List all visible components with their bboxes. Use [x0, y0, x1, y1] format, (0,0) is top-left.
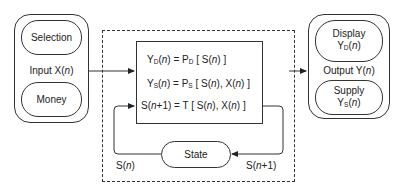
- equation-display: YD(n) = PD [ S(n) ]: [147, 54, 226, 68]
- output-supply-node: Supply YS(n): [315, 80, 383, 115]
- input-money-label: Money: [36, 94, 66, 106]
- equation-state-transition: S(n+1) = T [ S(n), X(n) ]: [141, 100, 246, 112]
- output-display-node: Display YD(n): [315, 20, 383, 62]
- output-supply-symbol: YS(n): [337, 97, 360, 111]
- input-money-node: Money: [21, 82, 82, 117]
- output-supply-label: Supply: [334, 85, 365, 97]
- output-display-label: Display: [333, 28, 366, 40]
- input-selection-label: Selection: [31, 32, 72, 44]
- state-label: State: [184, 149, 207, 161]
- state-node: State: [161, 141, 231, 168]
- feedback-label-current-state: S(n): [116, 160, 135, 172]
- output-label: Output Y(n): [308, 65, 390, 77]
- input-label: Input X(n): [14, 65, 89, 77]
- feedback-label-next-state: S(n+1): [246, 160, 276, 172]
- input-selection-node: Selection: [21, 20, 82, 55]
- output-display-symbol: YD(n): [337, 40, 361, 54]
- equation-supply: YS(n) = PS [ S(n), X(n) ]: [147, 78, 250, 92]
